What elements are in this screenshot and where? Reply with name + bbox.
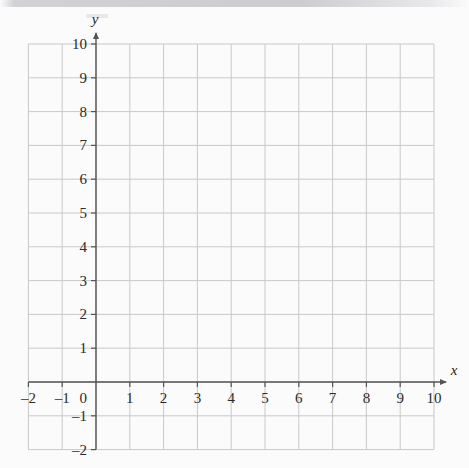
graph-canvas: –2–1123456789100 –2–112345678910 x y <box>0 0 469 468</box>
x-tick-label: 5 <box>261 390 269 406</box>
y-tick-label: 8 <box>80 104 88 120</box>
y-axis-label: y <box>90 11 99 27</box>
y-tick-label: 7 <box>80 137 88 153</box>
x-tick-label: –1 <box>54 390 70 406</box>
x-tick-label: 6 <box>295 390 303 406</box>
y-tick-label: 6 <box>80 171 88 187</box>
y-tick-label: 1 <box>80 340 88 356</box>
x-tick-label: 7 <box>329 390 337 406</box>
x-tick-label: 2 <box>160 390 168 406</box>
x-axis-label: x <box>450 362 458 378</box>
y-tick-label: –2 <box>71 442 87 458</box>
y-tick-label: 9 <box>80 70 88 86</box>
x-tick-label: 10 <box>427 390 442 406</box>
y-tick-label: 5 <box>80 205 88 221</box>
x-tick-label: 3 <box>194 390 202 406</box>
x-tick-label: 8 <box>363 390 371 406</box>
x-tick-label: –2 <box>20 390 36 406</box>
x-tick-label: 4 <box>227 390 235 406</box>
x-tick-label: 9 <box>396 390 404 406</box>
x-tick-label: 1 <box>126 390 134 406</box>
y-tick-label: 10 <box>72 36 87 52</box>
coordinate-plane: –2–1123456789100 –2–112345678910 x y <box>0 0 469 468</box>
y-tick-label: –1 <box>71 408 87 424</box>
y-tick-label: 3 <box>80 273 88 289</box>
y-tick-label: 4 <box>80 239 88 255</box>
y-tick-label: 2 <box>80 306 88 322</box>
origin-label: 0 <box>80 390 88 406</box>
